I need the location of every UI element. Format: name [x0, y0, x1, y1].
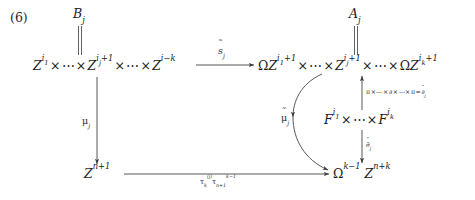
label-right-vertical-up-partial: π×⋯×∂×⋯×π=∂¯j — [366, 89, 426, 95]
commutative-diagram: (6) Bj Aj Zi1×⋯×Zij+1×⋯×Zi−k ΩZi1+1×⋯×Zi… — [0, 0, 475, 200]
label-left-vertical-mu: μj — [82, 116, 90, 126]
equality-bar-right — [355, 26, 358, 55]
arrow-curved-lower — [293, 117, 328, 170]
label-right-vertical-down-partial: ∂¯j — [366, 141, 371, 148]
diagram-arrows-layer — [0, 0, 475, 200]
equality-bar-left — [79, 26, 82, 55]
label-bottom-horizontal-tau: τk(j)τn+1k−1 — [200, 178, 236, 185]
arrow-curved-upper — [293, 74, 322, 117]
label-curved-mu-tilde: μ˜j — [281, 113, 289, 123]
label-top-horizontal-s-tilde: s˜j — [218, 46, 225, 56]
